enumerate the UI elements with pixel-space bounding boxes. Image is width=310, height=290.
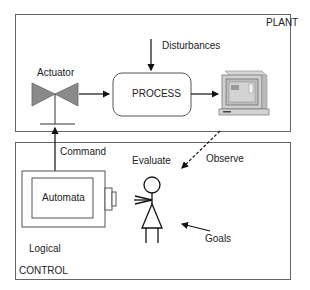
logical-label: Logical <box>29 243 61 254</box>
stick-figure-icon <box>134 177 162 243</box>
valve-icon <box>32 83 78 124</box>
actuator-label: Actuator <box>37 67 74 78</box>
computer-monitor-icon <box>219 71 269 115</box>
command-label: Command <box>60 146 106 157</box>
evaluate-label: Evaluate <box>132 155 171 166</box>
observe-label: Observe <box>206 153 244 164</box>
automata-label: Automata <box>42 192 85 203</box>
goals-label: Goals <box>205 233 231 244</box>
process-label: PROCESS <box>132 88 181 99</box>
goals-arrow <box>182 224 210 231</box>
disturbances-label: Disturbances <box>162 40 220 51</box>
